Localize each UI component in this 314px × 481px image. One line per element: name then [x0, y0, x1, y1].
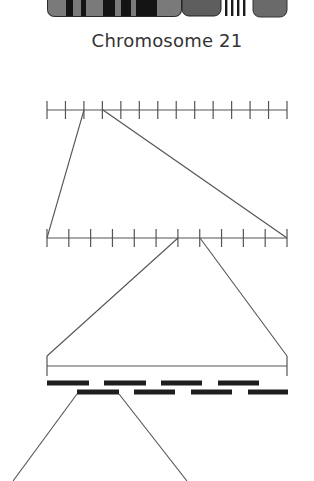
zoom-connector-line: [47, 110, 84, 238]
chromosome-band: [66, 0, 73, 17]
chromosome-band: [73, 0, 81, 17]
region-bracket: [47, 356, 287, 376]
ruler-coarse: [47, 101, 287, 119]
zoom-connector-line: [13, 394, 77, 481]
chromosome-band: [157, 0, 182, 17]
zoom-connector-lines: [13, 110, 287, 481]
zoom-connector-line: [103, 110, 287, 238]
clone-segment: [191, 390, 232, 395]
chromosome-band: [103, 0, 115, 17]
chromosome-band: [131, 0, 136, 17]
chromosome-satellite: [253, 0, 287, 17]
clone-segment: [134, 390, 175, 395]
zoom-connector-line: [47, 238, 178, 356]
clone-segment: [161, 381, 202, 386]
zoom-connector-line: [119, 394, 187, 481]
chromosome-long-arm-bands: [47, 0, 182, 17]
chromosome-21-ideogram: [47, 0, 287, 17]
chromosome-band: [121, 0, 131, 17]
ruler-fine: [47, 229, 287, 247]
chromosome-band: [115, 0, 121, 17]
clone-segment: [77, 390, 119, 395]
zoom-connector-line: [200, 238, 287, 356]
chromosome-block: [182, 0, 221, 16]
stalk-line: [243, 0, 245, 16]
clone-segment: [248, 390, 288, 395]
chromosome-mapping-diagram: [0, 0, 314, 481]
chromosome-title: Chromosome 21: [0, 30, 314, 51]
chromosome-band: [81, 0, 86, 17]
clone-segment: [104, 381, 146, 386]
stalk-line: [225, 0, 227, 16]
clone-segment: [218, 381, 259, 386]
stalk-line: [231, 0, 233, 16]
chromosome-band: [86, 0, 103, 17]
overlapping-clone-segments: [47, 381, 288, 395]
clone-segment: [47, 381, 89, 386]
chromosome-band: [136, 0, 157, 17]
chromosome-stalk-lines: [225, 0, 245, 16]
stalk-line: [237, 0, 239, 16]
